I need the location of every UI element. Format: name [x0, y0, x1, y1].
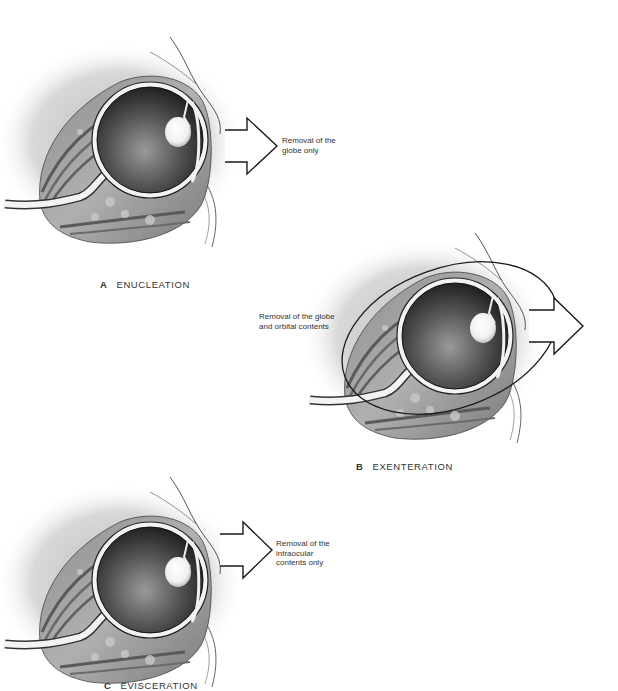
caption-evisceration: CEVISCERATION [104, 680, 198, 691]
caption-exenteration: BEXENTERATION [356, 461, 453, 472]
caption-letter-c: C [104, 680, 111, 691]
caption-title-exenteration: EXENTERATION [372, 461, 452, 472]
caption-title-evisceration: EVISCERATION [120, 680, 197, 691]
eye-illustration-evisceration [0, 462, 240, 682]
panel-evisceration: Removal of the intraocular contents only… [0, 0, 360, 686]
arrow-icon-exenteration [529, 298, 589, 354]
arrow-icon-evisceration [220, 522, 275, 578]
arrow-label-evisceration: Removal of the intraocular contents only [276, 539, 330, 568]
